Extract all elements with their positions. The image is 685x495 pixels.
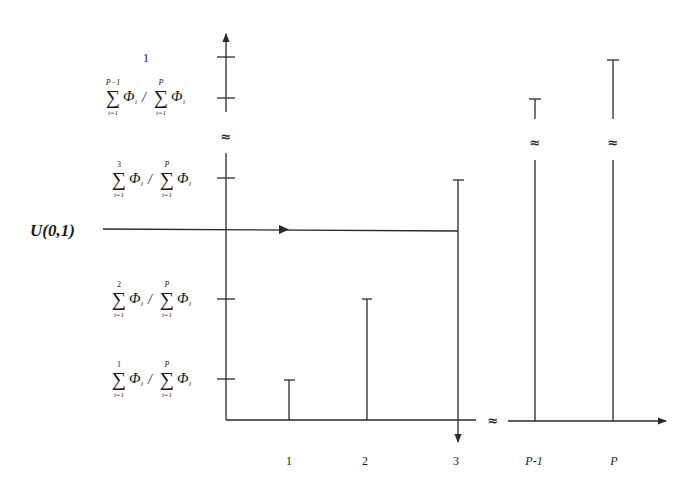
y-label-one: 1 [143,51,149,65]
svg-text:∑: ∑ [160,288,174,311]
svg-text:/: / [147,172,153,187]
svg-text:∑: ∑ [154,86,168,109]
svg-text:i: i [141,180,143,188]
svg-text:/: / [141,90,147,105]
x-label-3: 3 [453,454,459,468]
svg-text:i: i [189,300,191,308]
svg-text:i: i [189,180,191,188]
x-label-pm1: P-1 [524,454,542,468]
y-label-sum-pm1: P−1 ∑ i=1 Φ i / P ∑ i=1 Φ i [105,78,185,117]
svg-text:i: i [183,98,185,106]
selection-diagram: ≈ ≈ ≈ ≈ U(0,1) 1 2 3 P-1 P 1 P−1 ∑ i=1 Φ… [0,0,685,495]
svg-text:Φ: Φ [177,170,189,186]
svg-text:∑: ∑ [112,168,126,191]
y-axis-break-icon: ≈ [221,129,232,144]
svg-text:Φ: Φ [129,290,141,306]
svg-text:Φ: Φ [177,370,189,386]
y-label-sum-2: 2 ∑ i=1 Φ i / P ∑ i=1 Φ i [112,280,191,319]
svg-text:∑: ∑ [160,168,174,191]
svg-text:i: i [135,98,137,106]
bar-p-break-icon: ≈ [608,135,619,150]
svg-text:i=1: i=1 [114,311,124,319]
svg-text:Φ: Φ [129,170,141,186]
x-label-p: P [609,454,618,468]
svg-text:Φ: Φ [129,370,141,386]
svg-text:i: i [141,380,143,388]
svg-text:∑: ∑ [160,368,174,391]
svg-text:i: i [141,300,143,308]
uniform-sample-arrowhead [279,225,289,234]
x-label-2: 2 [362,454,368,468]
svg-text:Φ: Φ [177,290,189,306]
y-label-sum-3: 3 ∑ i=1 Φ i / P ∑ i=1 Φ i [112,160,191,199]
svg-text:i=1: i=1 [108,109,118,117]
svg-text:/: / [147,292,153,307]
uniform-label: U(0,1) [30,221,75,240]
bar-pm1-break-icon: ≈ [530,135,541,150]
svg-text:i=1: i=1 [114,391,124,399]
y-label-sum-1: 1 ∑ i=1 Φ i / P ∑ i=1 Φ i [112,360,191,399]
x-axis-break-icon: ≈ [488,413,499,428]
svg-text:∑: ∑ [112,368,126,391]
svg-text:i=1: i=1 [162,191,172,199]
x-label-1: 1 [286,454,292,468]
svg-text:i=1: i=1 [156,109,166,117]
svg-text:i=1: i=1 [114,191,124,199]
svg-text:i=1: i=1 [162,311,172,319]
svg-text:i=1: i=1 [162,391,172,399]
svg-text:/: / [147,372,153,387]
svg-text:i: i [189,380,191,388]
svg-text:∑: ∑ [106,86,120,109]
svg-text:Φ: Φ [171,88,183,104]
svg-text:∑: ∑ [112,288,126,311]
svg-text:Φ: Φ [123,88,135,104]
